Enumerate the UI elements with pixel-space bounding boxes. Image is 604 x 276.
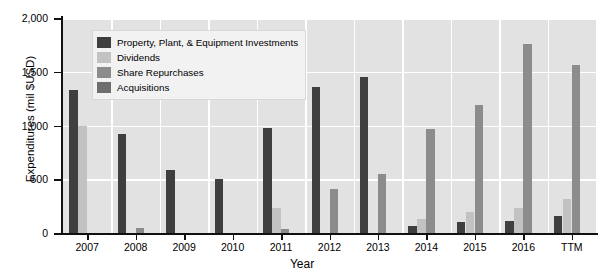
legend-item[interactable]: Share Repurchases bbox=[97, 65, 298, 80]
bar bbox=[312, 87, 320, 233]
bar bbox=[330, 189, 338, 233]
bar bbox=[136, 228, 144, 233]
x-axis-tick bbox=[330, 235, 332, 240]
x-axis-tick bbox=[281, 235, 283, 240]
bar bbox=[166, 170, 174, 233]
legend-item[interactable]: Dividends bbox=[97, 50, 298, 65]
legend-swatch-share-repurchases bbox=[97, 67, 111, 78]
y-axis-tick-label: 2,000 bbox=[0, 12, 48, 24]
bar bbox=[475, 105, 483, 233]
x-axis-tick bbox=[523, 235, 525, 240]
x-axis-tick bbox=[572, 235, 574, 240]
x-axis-tick bbox=[136, 235, 138, 240]
y-axis-tick-label: 1,500 bbox=[0, 66, 48, 78]
bar bbox=[563, 199, 571, 233]
x-axis-tick bbox=[87, 235, 89, 240]
legend-swatch-ppe bbox=[97, 37, 111, 48]
y-axis-tick-label: 500 bbox=[0, 173, 48, 185]
bar bbox=[523, 44, 531, 233]
y-axis-tick bbox=[54, 126, 61, 128]
x-axis-tick bbox=[184, 235, 186, 240]
gridline-vertical bbox=[354, 18, 356, 233]
y-axis-tick bbox=[54, 18, 61, 20]
legend-item-label: Acquisitions bbox=[117, 82, 169, 93]
y-axis-tick-label: 1,000 bbox=[0, 120, 48, 132]
legend-swatch-dividends bbox=[97, 52, 111, 63]
gridline-horizontal bbox=[63, 126, 596, 128]
legend-swatch-acquisitions bbox=[97, 82, 111, 93]
bar bbox=[78, 126, 86, 234]
bar bbox=[572, 65, 580, 233]
gridline-vertical bbox=[402, 18, 404, 233]
bar bbox=[417, 219, 425, 234]
x-axis-tick bbox=[426, 235, 428, 240]
legend-item-label: Dividends bbox=[117, 52, 160, 63]
legend-item-label: Property, Plant, & Equipment Investments bbox=[117, 37, 298, 48]
gridline-vertical bbox=[451, 18, 453, 233]
x-axis-tick bbox=[378, 235, 380, 240]
gridline-horizontal bbox=[63, 18, 596, 20]
bar bbox=[263, 128, 271, 233]
bar bbox=[118, 134, 126, 233]
gridline-horizontal bbox=[63, 179, 596, 181]
bar bbox=[457, 222, 465, 233]
bar bbox=[272, 208, 280, 233]
x-axis-tick bbox=[233, 235, 235, 240]
x-axis-tick bbox=[475, 235, 477, 240]
bar bbox=[378, 174, 386, 233]
legend-item[interactable]: Acquisitions bbox=[97, 80, 298, 95]
y-axis-tick-label: 0 bbox=[0, 227, 48, 239]
gridline-vertical bbox=[499, 18, 501, 233]
x-axis-tick-label: TTM bbox=[542, 241, 602, 253]
bar bbox=[505, 221, 513, 233]
gridline-vertical bbox=[548, 18, 550, 233]
chart-legend: Property, Plant, & Equipment Investments… bbox=[92, 30, 306, 100]
y-axis-tick bbox=[54, 179, 61, 181]
bar-chart: Expenditures (mil $USD) 05001,0001,5002,… bbox=[0, 0, 604, 276]
bar bbox=[281, 229, 289, 233]
x-axis-title: Year bbox=[0, 257, 604, 271]
y-axis-line bbox=[61, 16, 63, 235]
bar bbox=[514, 208, 522, 233]
bar bbox=[466, 212, 474, 233]
bar bbox=[408, 226, 416, 233]
bar bbox=[360, 77, 368, 233]
y-axis-tick bbox=[54, 72, 61, 74]
bar bbox=[69, 90, 77, 233]
bar bbox=[554, 216, 562, 233]
bar bbox=[215, 179, 223, 233]
legend-item[interactable]: Property, Plant, & Equipment Investments bbox=[97, 35, 298, 50]
legend-item-label: Share Repurchases bbox=[117, 67, 204, 78]
y-axis-tick bbox=[54, 233, 61, 235]
bar bbox=[426, 129, 434, 233]
